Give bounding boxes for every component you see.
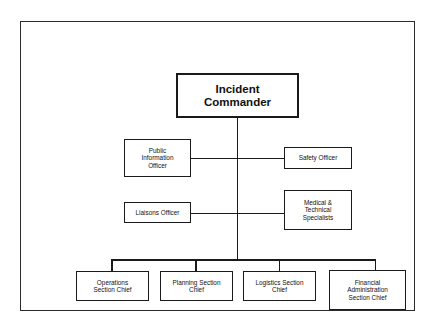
node-label-medical-technical-specialists: Medical & Technical Specialists bbox=[285, 199, 351, 221]
node-label-public-information-officer: Public Information Officer bbox=[125, 147, 190, 169]
connector-general-staff-bus bbox=[111, 259, 376, 261]
node-logistics-section-chief[interactable]: Logistics Section Chief bbox=[243, 271, 316, 301]
node-label-incident-commander: Incident Commander bbox=[178, 83, 297, 109]
connector-drop-planning bbox=[195, 259, 197, 271]
node-label-logistics-section-chief: Logistics Section Chief bbox=[244, 279, 315, 293]
diagram-frame: Incident Commander Public Information Of… bbox=[20, 21, 415, 311]
connector-liaisons-officer bbox=[191, 213, 237, 215]
node-liaisons-officer[interactable]: Liaisons Officer bbox=[124, 202, 191, 223]
org-chart-canvas: Incident Commander Public Information Of… bbox=[0, 0, 435, 331]
connector-public-information-officer bbox=[191, 158, 237, 160]
node-label-safety-officer: Safety Officer bbox=[285, 154, 351, 161]
node-label-liaisons-officer: Liaisons Officer bbox=[125, 209, 190, 216]
node-label-financial-administration-section-chief: Financial Administration Section Chief bbox=[330, 279, 405, 301]
connector-safety-officer bbox=[236, 158, 284, 160]
node-incident-commander[interactable]: Incident Commander bbox=[176, 73, 299, 118]
node-label-operations-section-chief: Operations Section Chief bbox=[77, 279, 148, 293]
node-financial-administration-section-chief[interactable]: Financial Administration Section Chief bbox=[329, 270, 406, 310]
connector-drop-operations bbox=[111, 259, 113, 271]
connector-drop-financial bbox=[375, 259, 377, 270]
node-planning-section-chief[interactable]: Planning Section Chief bbox=[160, 271, 233, 301]
node-operations-section-chief[interactable]: Operations Section Chief bbox=[76, 271, 149, 301]
connector-drop-logistics bbox=[279, 259, 281, 271]
connector-medical-technical-specialists bbox=[236, 213, 284, 215]
node-medical-technical-specialists[interactable]: Medical & Technical Specialists bbox=[284, 190, 352, 230]
node-label-planning-section-chief: Planning Section Chief bbox=[161, 279, 232, 293]
node-public-information-officer[interactable]: Public Information Officer bbox=[124, 139, 191, 177]
connector-command-trunk bbox=[237, 118, 239, 260]
node-safety-officer[interactable]: Safety Officer bbox=[284, 147, 352, 169]
